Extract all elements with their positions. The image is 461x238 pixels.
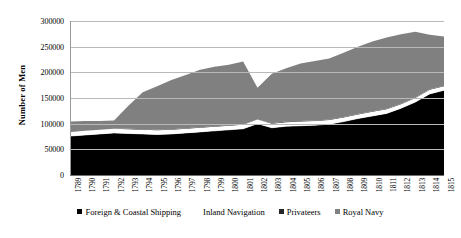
gridline (71, 98, 444, 99)
x-axis-tick-label: 1808 (346, 178, 355, 192)
y-axis-tick-label: 200000 (41, 68, 64, 77)
legend-swatch-icon (335, 209, 340, 214)
legend-swatch-icon (77, 209, 82, 214)
plot-area (70, 21, 444, 175)
x-axis-tick-label: 1813 (418, 178, 427, 192)
y-axis-tick-label: 300000 (41, 17, 64, 26)
legend-item[interactable]: Foreign & Coastal Shipping (77, 208, 181, 217)
x-axis-tick-label: 1793 (131, 178, 140, 192)
x-axis-tick-label: 1795 (160, 178, 169, 192)
x-axis-tick-label: 1815 (447, 178, 456, 192)
x-axis-tick-label: 1812 (403, 178, 412, 192)
x-axis-tick-label: 1790 (88, 178, 97, 192)
x-axis-tick-label: 1799 (217, 178, 226, 192)
x-axis-tick-label: 1814 (432, 178, 441, 192)
x-axis-tick-label: 1791 (102, 178, 111, 192)
legend-swatch-icon (195, 209, 200, 214)
x-axis-tick-label: 1800 (231, 178, 240, 192)
gridline (71, 124, 444, 125)
x-axis-tick-label: 1801 (246, 178, 255, 192)
x-axis-tick-label: 1809 (360, 178, 369, 192)
y-axis-tick-label: 150000 (41, 94, 64, 103)
y-axis-tick-label: 50000 (44, 145, 64, 154)
x-axis-tick-label: 1792 (117, 178, 126, 192)
x-axis-tick-label: 1798 (203, 178, 212, 192)
y-axis-tick-label: 0 (60, 171, 64, 180)
legend-item[interactable]: Inland Navigation (195, 208, 265, 217)
x-axis-tick-label: 1806 (317, 178, 326, 192)
x-axis-tick-label: 1803 (274, 178, 283, 192)
legend-label: Foreign & Coastal Shipping (85, 208, 181, 217)
x-axis-tick-label: 1807 (332, 178, 341, 192)
x-axis-tick-label: 1789 (74, 178, 83, 192)
gridline (71, 72, 444, 73)
x-axis-tick-label: 1794 (145, 178, 154, 192)
legend-swatch-icon (279, 209, 284, 214)
gridline (71, 21, 444, 22)
chart-legend: Foreign & Coastal ShippingInland Navigat… (0, 208, 461, 217)
gridline (71, 47, 444, 48)
legend-item[interactable]: Privateers (279, 208, 321, 217)
x-axis-tick-label: 1811 (389, 178, 398, 192)
x-axis-tick-label: 1797 (188, 178, 197, 192)
x-axis-tick-label: 1804 (289, 178, 298, 192)
legend-item[interactable]: Royal Navy (335, 208, 384, 217)
stacked-area-chart: Number of Men 05000010000015000020000025… (0, 0, 461, 238)
legend-label: Royal Navy (343, 208, 384, 217)
legend-label: Privateers (287, 208, 321, 217)
y-axis-tick-label: 100000 (41, 119, 64, 128)
x-axis-tick-labels: 1789179017911792179317941795179617971798… (70, 176, 443, 206)
legend-label: Inland Navigation (203, 208, 265, 217)
x-axis-tick-label: 1802 (260, 178, 269, 192)
x-axis-tick-label: 1805 (303, 178, 312, 192)
gridline (71, 149, 444, 150)
x-axis-tick-label: 1796 (174, 178, 183, 192)
x-axis-tick-label: 1810 (375, 178, 384, 192)
y-axis-tick-labels: 050000100000150000200000250000300000 (0, 0, 68, 180)
y-axis-tick-label: 250000 (41, 42, 64, 51)
